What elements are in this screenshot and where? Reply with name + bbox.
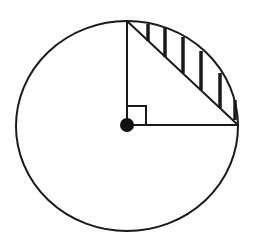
center-point <box>120 118 134 132</box>
circle-segment-diagram <box>0 0 256 246</box>
